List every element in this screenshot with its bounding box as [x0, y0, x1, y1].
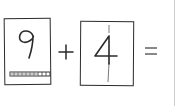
- equals-sign: [0, 0, 182, 106]
- page-divider: [174, 0, 175, 106]
